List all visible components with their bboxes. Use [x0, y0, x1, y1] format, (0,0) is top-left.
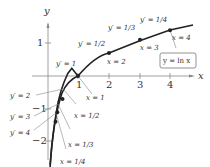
ln-graph: y x 1 2 3 4 1 −1 −2 x = 1/4 x = 1/3 x = … — [0, 0, 210, 167]
label-x-third: x = 1/3 — [68, 141, 94, 149]
x-arrow-icon — [189, 75, 195, 78]
y-tick-neg1: −1 — [32, 103, 47, 114]
x-axis-label: x — [198, 70, 204, 81]
label-x-2: x = 2 — [107, 58, 126, 66]
label-slope-half: y′ = 1/2 — [77, 40, 106, 48]
y-tick-1: 1 — [37, 37, 43, 48]
x-tick-4: 4 — [167, 79, 173, 90]
curve-label: y = ln x — [162, 57, 190, 65]
x-tick-2: 2 — [106, 79, 112, 90]
label-slope-quarter: y′ = 1/4 — [139, 16, 167, 24]
label-slope-2: y′ = 2 — [9, 92, 31, 100]
axes — [32, 24, 192, 160]
y-tick-neg2: −2 — [32, 135, 47, 146]
y-axis-label: y — [43, 5, 50, 16]
y-arrow-icon — [47, 22, 50, 28]
label-x-half: x = 1/2 — [74, 112, 100, 120]
label-x-1: x = 1 — [86, 94, 105, 102]
label-slope-1: y′ = 1 — [55, 60, 76, 68]
label-x-quarter: x = 1/4 — [60, 158, 86, 166]
label-x-3: x = 3 — [140, 44, 159, 52]
x-tick-3: 3 — [137, 79, 143, 90]
label-slope-3: y′ = 3 — [9, 113, 31, 121]
label-x-4: x = 4 — [172, 34, 191, 42]
label-slope-4: y′ = 4 — [9, 129, 30, 137]
label-slope-third: y′ = 1/3 — [107, 24, 136, 32]
